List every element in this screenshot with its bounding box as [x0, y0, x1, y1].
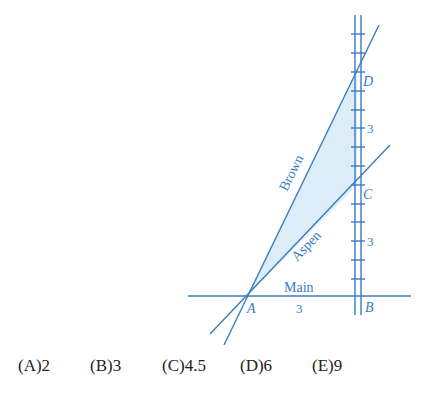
choice-d[interactable]: (D)6 [240, 356, 312, 376]
choice-b[interactable]: (B)3 [90, 356, 162, 376]
choice-d-value: 6 [264, 356, 273, 375]
choice-e-letter: (E) [312, 356, 334, 375]
road-label-main: Main [284, 280, 314, 295]
point-label-b: B [365, 300, 374, 315]
choice-a[interactable]: (A)2 [18, 356, 90, 376]
point-label-c: C [363, 187, 373, 202]
choice-b-letter: (B) [90, 356, 113, 375]
choice-c-value: 4.5 [185, 356, 206, 375]
point-label-a: A [246, 301, 256, 316]
choice-a-letter: (A) [18, 356, 42, 375]
choice-c[interactable]: (C)4.5 [162, 356, 240, 376]
segment-label-ab: 3 [296, 301, 303, 316]
choice-a-value: 2 [42, 356, 51, 375]
choice-e[interactable]: (E)9 [312, 356, 384, 376]
choice-b-value: 3 [113, 356, 122, 375]
choice-c-letter: (C) [162, 356, 185, 375]
answer-choices: (A)2 (B)3 (C)4.5 (D)6 (E)9 [18, 356, 384, 376]
choice-e-value: 9 [334, 356, 343, 375]
segment-label-dc: 3 [367, 121, 374, 136]
choice-d-letter: (D) [240, 356, 264, 375]
road-diagram: D C B A 3 3 3 Main Brown Aspen [0, 0, 429, 350]
point-label-d: D [362, 74, 373, 89]
segment-label-cb: 3 [367, 234, 374, 249]
